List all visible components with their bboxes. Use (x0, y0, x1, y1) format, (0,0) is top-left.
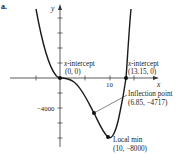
inflect-line2: (6.85, −4717) (128, 99, 168, 107)
x-tick-label-10: 10 (106, 81, 113, 88)
x-axis: 10 x (10, 76, 161, 90)
x-intercept-origin-point (58, 76, 62, 80)
function-curve (36, 9, 131, 138)
xint0-line1: -intercept (67, 60, 95, 68)
y-axis-arrow-icon (58, 4, 62, 10)
min-line2: (10, −8000) (113, 145, 148, 153)
svg-text:x-intercept: x-intercept (63, 60, 95, 68)
y-axis: −4000 y (37, 4, 63, 147)
annotation-x-intercept-13: x-intercept (13.15, 0) (127, 60, 159, 76)
xint1-line2: (13.15, 0) (128, 68, 157, 76)
annotation-inflection: Inflection point (6.85, −4717) (128, 90, 173, 107)
y-axis-label: y (50, 4, 55, 13)
x-intercept-13-point (124, 76, 128, 80)
inflect-line1: Inflection point (128, 90, 173, 98)
panel-label: a. (1, 2, 7, 11)
local-min-point (106, 135, 110, 139)
xint0-line2: (0, 0) (65, 68, 81, 76)
xint1-line1: -intercept (131, 60, 159, 68)
annotation-local-min: Local min (10, −8000) (113, 136, 148, 153)
min-line1: Local min (113, 136, 143, 144)
svg-text:x-intercept: x-intercept (127, 60, 159, 68)
x-axis-label: x (156, 80, 161, 89)
function-graph: a. 10 x −4000 y x-intercept (0, 0) (0, 0, 179, 154)
annotation-x-intercept-origin: x-intercept (0, 0) (63, 60, 95, 76)
y-tick-label-neg4000: −4000 (37, 105, 55, 112)
